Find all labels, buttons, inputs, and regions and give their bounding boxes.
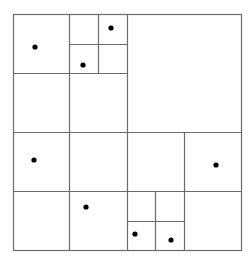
data-point [83, 204, 88, 209]
data-point [32, 44, 37, 49]
quadtree-diagram [0, 0, 252, 264]
data-point [80, 62, 85, 67]
data-point [168, 237, 173, 242]
data-point [31, 157, 36, 162]
data-point [132, 231, 137, 236]
data-point [213, 162, 218, 167]
data-points [31, 25, 218, 242]
partition-lines [14, 15, 242, 251]
data-point [108, 25, 113, 30]
